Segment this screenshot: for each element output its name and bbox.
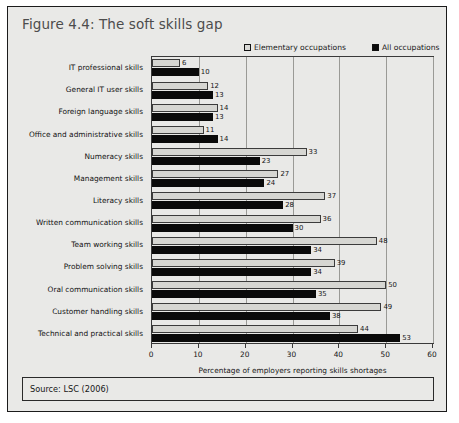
category-label: Management skills bbox=[74, 173, 143, 182]
bar-all bbox=[152, 334, 400, 342]
bar-value-label: 14 bbox=[220, 135, 229, 143]
bar-value-label: 49 bbox=[383, 303, 392, 311]
bar-value-label: 34 bbox=[313, 268, 322, 276]
x-tick-mark bbox=[151, 344, 152, 348]
bar-all bbox=[152, 157, 260, 165]
legend-item-all: All occupations bbox=[372, 43, 440, 52]
bar-elementary bbox=[152, 215, 321, 223]
bar-value-label: 35 bbox=[318, 290, 327, 298]
bar-elementary bbox=[152, 281, 386, 289]
bar-value-label: 11 bbox=[206, 126, 215, 134]
gridline bbox=[386, 57, 387, 343]
category-label: Technical and practical skills bbox=[38, 328, 143, 337]
all-swatch-icon bbox=[372, 44, 379, 51]
bar-elementary bbox=[152, 126, 204, 134]
bar-value-label: 37 bbox=[327, 192, 336, 200]
bar-all bbox=[152, 135, 218, 143]
category-label: Problem solving skills bbox=[64, 262, 143, 271]
x-tick-mark bbox=[245, 344, 246, 348]
bar-value-label: 28 bbox=[285, 201, 294, 209]
bar-all bbox=[152, 268, 311, 276]
bar-elementary bbox=[152, 303, 381, 311]
bar-elementary bbox=[152, 104, 218, 112]
bar-all bbox=[152, 68, 199, 76]
bar-all bbox=[152, 91, 213, 99]
plot-wrapper: IT professional skillsGeneral IT user sk… bbox=[24, 56, 434, 356]
bar-value-label: 13 bbox=[215, 113, 224, 121]
figure-frame: Figure 4.4: The soft skills gap Elementa… bbox=[7, 6, 447, 412]
category-label: Numeracy skills bbox=[85, 151, 143, 160]
x-tick-label: 20 bbox=[240, 350, 249, 359]
bar-value-label: 14 bbox=[220, 104, 229, 112]
bar-value-label: 10 bbox=[201, 68, 210, 76]
bar-value-label: 13 bbox=[215, 91, 224, 99]
bar-value-label: 6 bbox=[182, 59, 186, 67]
bar-all bbox=[152, 290, 316, 298]
category-label: IT professional skills bbox=[69, 63, 143, 72]
bar-value-label: 23 bbox=[262, 157, 271, 165]
source-box: Source: LSC (2006) bbox=[22, 377, 434, 401]
x-tick-mark bbox=[292, 344, 293, 348]
figure-title: Figure 4.4: The soft skills gap bbox=[22, 16, 223, 32]
bar-value-label: 53 bbox=[402, 334, 411, 342]
category-label: Office and administrative skills bbox=[29, 129, 143, 138]
source-text: Source: LSC (2006) bbox=[30, 384, 109, 394]
bar-value-label: 33 bbox=[309, 148, 318, 156]
bar-value-label: 34 bbox=[313, 246, 322, 254]
bar-elementary bbox=[152, 170, 278, 178]
category-label: Literacy skills bbox=[93, 196, 143, 205]
bar-all bbox=[152, 224, 293, 232]
x-tick-mark bbox=[432, 344, 433, 348]
category-label: Written communication skills bbox=[36, 218, 143, 227]
x-tick-label: 10 bbox=[193, 350, 202, 359]
x-tick-mark bbox=[198, 344, 199, 348]
x-tick-label: 30 bbox=[287, 350, 296, 359]
x-tick-label: 40 bbox=[334, 350, 343, 359]
bar-all bbox=[152, 201, 283, 209]
legend-label-elementary: Elementary occupations bbox=[254, 43, 346, 52]
bar-value-label: 12 bbox=[210, 82, 219, 90]
bar-value-label: 48 bbox=[379, 237, 388, 245]
gridline bbox=[339, 57, 340, 343]
x-tick-mark bbox=[338, 344, 339, 348]
category-label: Oral communication skills bbox=[48, 284, 143, 293]
bar-elementary bbox=[152, 192, 325, 200]
bar-elementary bbox=[152, 148, 307, 156]
bar-all bbox=[152, 246, 311, 254]
bar-value-label: 39 bbox=[337, 259, 346, 267]
category-label: Foreign language skills bbox=[58, 107, 143, 116]
bar-all bbox=[152, 312, 330, 320]
bar-value-label: 27 bbox=[280, 170, 289, 178]
bar-value-label: 36 bbox=[323, 215, 332, 223]
bar-elementary bbox=[152, 82, 208, 90]
x-tick-label: 0 bbox=[149, 350, 154, 359]
bar-elementary bbox=[152, 237, 377, 245]
gridline bbox=[433, 57, 434, 343]
bar-value-label: 44 bbox=[360, 325, 369, 333]
category-axis-labels: IT professional skillsGeneral IT user sk… bbox=[24, 56, 147, 344]
legend-label-all: All occupations bbox=[382, 43, 440, 52]
bar-elementary bbox=[152, 325, 358, 333]
bar-all bbox=[152, 179, 264, 187]
legend-item-elementary: Elementary occupations bbox=[244, 43, 346, 52]
bar-value-label: 38 bbox=[332, 312, 341, 320]
bar-elementary bbox=[152, 59, 180, 67]
x-tick-label: 50 bbox=[380, 350, 389, 359]
bar-value-label: 24 bbox=[266, 179, 275, 187]
bar-all bbox=[152, 113, 213, 121]
bar-elementary bbox=[152, 259, 335, 267]
plot-area: 6101213141311143323272437283630483439345… bbox=[151, 56, 434, 344]
elementary-swatch-icon bbox=[244, 44, 251, 51]
category-label: General IT user skills bbox=[66, 85, 143, 94]
chart-legend: Elementary occupations All occupations bbox=[244, 41, 440, 53]
category-label: Customer handling skills bbox=[52, 306, 143, 315]
bar-value-label: 30 bbox=[295, 224, 304, 232]
category-label: Team working skills bbox=[71, 240, 143, 249]
x-tick-label: 60 bbox=[427, 350, 436, 359]
x-tick-mark bbox=[385, 344, 386, 348]
bar-value-label: 50 bbox=[388, 281, 397, 289]
x-axis-title: Percentage of employers reporting skills… bbox=[151, 366, 434, 375]
